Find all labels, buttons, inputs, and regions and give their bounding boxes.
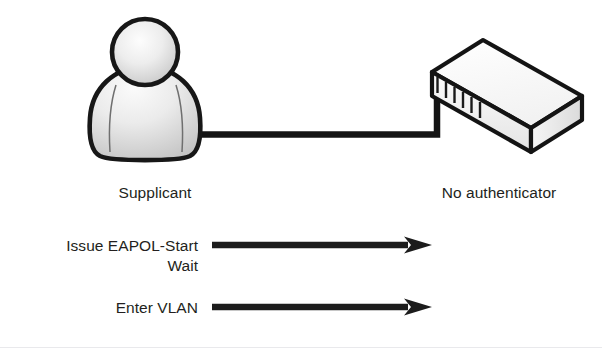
connection-link bbox=[195, 73, 437, 135]
message-label-wait: Wait bbox=[167, 256, 198, 275]
diagram-canvas: Supplicant No authenticator Issue EAPOL-… bbox=[0, 0, 602, 355]
node-label-supplicant: Supplicant bbox=[119, 183, 192, 202]
bottom-divider bbox=[0, 347, 602, 348]
message-arrow-eapol-start bbox=[212, 237, 432, 254]
network-switch-icon bbox=[432, 40, 582, 152]
person-icon bbox=[90, 19, 201, 160]
diagram-graphics bbox=[0, 0, 602, 355]
message-label-enter-vlan: Enter VLAN bbox=[116, 298, 198, 317]
message-label-eapol-start: Issue EAPOL-Start bbox=[66, 236, 198, 255]
message-arrow-enter-vlan bbox=[212, 299, 432, 316]
node-label-authenticator: No authenticator bbox=[442, 183, 557, 202]
